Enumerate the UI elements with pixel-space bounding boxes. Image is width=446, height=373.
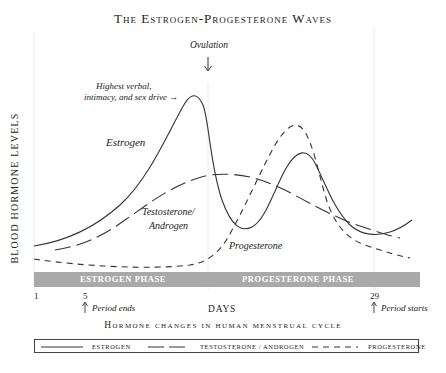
estrogen-curve-label: Estrogen — [106, 136, 145, 148]
estrogen-curve — [34, 96, 412, 246]
legend: ESTROGEN TESTOSTERONE / ANDROGEN PROGEST… — [34, 339, 419, 353]
legend-estrogen-label: ESTROGEN — [92, 343, 131, 350]
progesterone-phase-label: PROGESTERONE PHASE — [242, 274, 354, 284]
progesterone-curve — [34, 125, 410, 267]
legend-testosterone-label: TESTOSTERONE / ANDROGEN — [200, 343, 304, 350]
testosterone-curve-label-line2: Androgen — [149, 220, 188, 231]
ovulation-label: Ovulation — [190, 40, 228, 50]
estrogen-phase-label: ESTROGEN PHASE — [80, 274, 166, 284]
period-ends-label: Period ends — [92, 303, 135, 313]
x-tick-1: 1 — [34, 291, 39, 301]
legend-progesterone-label: PROGESTERONE — [368, 343, 426, 350]
x-tick-5: 5 — [83, 291, 88, 301]
chart-plot — [0, 0, 446, 373]
progesterone-curve-label: Progesterone — [229, 240, 282, 251]
x-axis-label: DAYS — [208, 304, 236, 314]
x-tick-29: 29 — [370, 291, 379, 301]
period-starts-label: Period starts — [381, 303, 428, 313]
drive-annotation-line2: intimacy, and sex drive → — [84, 92, 178, 102]
chart-subtitle: Hormone changes in human menstrual cycle — [0, 320, 446, 330]
drive-annotation-line1: Highest verbal, — [96, 81, 152, 91]
testosterone-curve-label-line1: Testosterone/ — [142, 206, 195, 217]
